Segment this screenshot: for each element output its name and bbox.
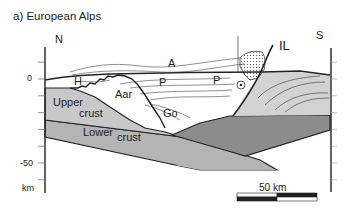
scale-bar-segment-1b — [277, 193, 317, 197]
scale-bar-segment-1a — [237, 193, 277, 197]
cross-section-figure: a) European Alps N S IL — [0, 0, 355, 214]
lower-crust-label-2: crust — [117, 131, 141, 143]
scale-bar-label: 50 km — [259, 182, 286, 193]
depth-label-0: 0 — [27, 73, 32, 83]
left-axis-ticks — [38, 62, 45, 180]
scale-bar — [237, 193, 317, 201]
depth-label-minus50: -50 — [20, 158, 33, 168]
upper-crust-label-2: crust — [79, 107, 103, 119]
north-label: N — [55, 33, 63, 45]
scale-bar-segment-2a — [237, 197, 277, 201]
austroalpine-label: A — [168, 57, 176, 69]
gotthard-label: Go — [163, 107, 178, 119]
figure-title: a) European Alps — [13, 10, 101, 22]
south-label: S — [316, 29, 323, 41]
penninic-label-1: P — [159, 76, 166, 88]
helvetic-label: H — [74, 75, 82, 87]
depth-unit-label: km — [22, 183, 34, 193]
scale-bar-segment-2b — [277, 197, 317, 201]
lower-crust-label-1: Lower — [83, 126, 113, 138]
insubric-line-label: IL — [279, 38, 290, 53]
out-of-plane-dot-icon — [240, 84, 243, 87]
penninic-label-2: P — [213, 74, 220, 86]
right-axis-ticks — [331, 62, 337, 180]
aar-label: Aar — [115, 88, 132, 100]
